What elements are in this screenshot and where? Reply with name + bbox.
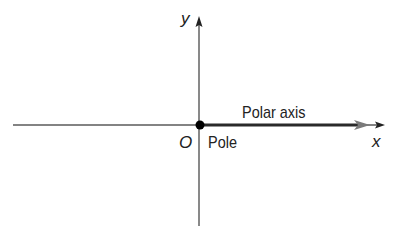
polar-diagram: y O Pole Polar axis x — [0, 0, 396, 229]
y-axis-label: y — [181, 10, 190, 27]
polar-axis-label: Polar axis — [242, 104, 305, 121]
x-axis-label: x — [372, 133, 381, 150]
pole-label: Pole — [208, 134, 237, 151]
axes-svg — [0, 0, 396, 229]
origin-label: O — [179, 134, 192, 151]
pole-dot — [196, 121, 205, 130]
